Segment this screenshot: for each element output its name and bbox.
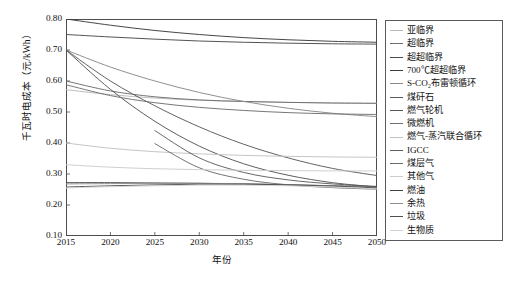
y-tick-0.50: 0.50 [46,107,62,116]
x-axis-tick-labels: 20152020202520302035204020452050 [66,238,377,252]
legend-swatch-line-icon [390,123,403,124]
legend-swatch-line-icon [390,83,403,84]
legend-label: 燃油 [407,186,425,195]
legend-swatch-line-icon [390,30,403,31]
x-tick-2030: 2030 [190,238,208,247]
plot-area [66,19,377,236]
legend-swatch-line-icon [390,216,403,217]
series-line-9 [155,131,377,187]
legend-label: 超超临界 [407,53,443,62]
x-tick-2045: 2045 [323,238,341,247]
y-tick-0.20: 0.20 [46,200,62,209]
legend-item-10[interactable]: 煤层气 [390,157,499,170]
legend-swatch-line-icon [390,97,403,98]
legend-swatch-line-icon [390,43,403,44]
series-lines [66,19,377,236]
legend-item-5[interactable]: 煤矸石 [390,90,499,103]
legend-swatch-line-icon [390,137,403,138]
legend-label: 微燃机 [407,119,434,128]
series-line-4 [66,50,377,117]
legend-label: 超临界 [407,39,434,48]
series-line-8 [66,143,377,157]
legend-item-9[interactable]: IGCC [390,144,499,157]
legend-label: 燃气-蒸汽联合循环 [407,132,482,141]
y-axis-tick-labels: 0.100.200.300.400.500.600.700.80 [0,19,62,236]
legend-item-14[interactable]: 垃圾 [390,210,499,223]
legend-label: 燃气轮机 [407,106,443,115]
chart-figure: 千瓦时电成本（元/kWh） 0.100.200.300.400.500.600.… [0,0,511,284]
y-tick-0.70: 0.70 [46,45,62,54]
legend-swatch-line-icon [390,230,403,231]
y-tick-0.60: 0.60 [46,76,62,85]
legend-label: 亚临界 [407,26,434,35]
series-line-7 [66,85,377,115]
legend-label: 垃圾 [407,212,425,221]
legend-swatch-line-icon [390,176,403,177]
series-line-3 [66,19,377,42]
legend-swatch-line-icon [390,190,403,191]
legend-item-13[interactable]: 余热 [390,197,499,210]
x-tick-2035: 2035 [235,238,253,247]
y-tick-0.30: 0.30 [46,169,62,178]
legend-item-12[interactable]: 燃油 [390,184,499,197]
legend-item-4[interactable]: S-CO₂布雷顿循环 [390,77,499,90]
legend-swatch-line-icon [390,110,403,111]
legend-item-2[interactable]: 超超临界 [390,51,499,64]
series-line-10 [155,144,377,190]
legend-item-8[interactable]: 燃气-蒸汽联合循环 [390,130,499,143]
x-tick-2015: 2015 [57,238,75,247]
legend-label: 700℃超超临界 [407,66,466,75]
legend-item-11[interactable]: 其他气 [390,170,499,183]
legend-label: 其他气 [407,172,434,181]
chart-legend: 亚临界超临界超超临界700℃超超临界S-CO₂布雷顿循环煤矸石燃气轮机微燃机燃气… [385,20,503,241]
legend-label: 生物质 [407,226,434,235]
legend-swatch-line-icon [390,150,403,151]
series-line-1 [66,81,377,103]
legend-item-6[interactable]: 燃气轮机 [390,104,499,117]
legend-item-1[interactable]: 超临界 [390,37,499,50]
legend-item-0[interactable]: 亚临界 [390,24,499,37]
legend-label: 煤矸石 [407,93,434,102]
legend-swatch-line-icon [390,203,403,204]
y-tick-0.40: 0.40 [46,138,62,147]
legend-swatch-line-icon [390,70,403,71]
legend-item-3[interactable]: 700℃超超临界 [390,64,499,77]
x-tick-2025: 2025 [146,238,164,247]
legend-label: S-CO₂布雷顿循环 [407,79,476,88]
x-tick-2050: 2050 [368,238,386,247]
legend-label: IGCC [407,146,429,155]
legend-item-7[interactable]: 微燃机 [390,117,499,130]
x-tick-2040: 2040 [279,238,297,247]
legend-label: 煤层气 [407,159,434,168]
legend-swatch-line-icon [390,57,403,58]
legend-swatch-line-icon [390,163,403,164]
y-tick-0.80: 0.80 [46,14,62,23]
x-axis-title: 年份 [66,252,377,266]
x-tick-2020: 2020 [101,238,119,247]
legend-item-15[interactable]: 生物质 [390,223,499,236]
legend-label: 余热 [407,199,425,208]
